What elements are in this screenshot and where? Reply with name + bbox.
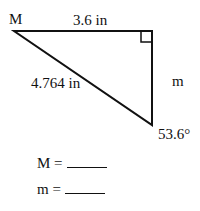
answer-blank[interactable] [67, 155, 107, 168]
question-m-lower: m = [37, 181, 105, 197]
question-m-upper: M = [37, 155, 107, 171]
answer-blank[interactable] [65, 181, 105, 194]
vertex-label-m: M [9, 12, 22, 27]
right-angle-marker [141, 31, 152, 42]
top-side-label: 3.6 in [73, 13, 107, 28]
hypotenuse-label: 4.764 in [31, 76, 80, 91]
question-label: m = [37, 181, 61, 197]
triangle-figure [0, 0, 200, 211]
question-label: M = [37, 155, 63, 171]
angle-label: 53.6° [158, 127, 190, 142]
right-side-label: m [172, 74, 184, 89]
